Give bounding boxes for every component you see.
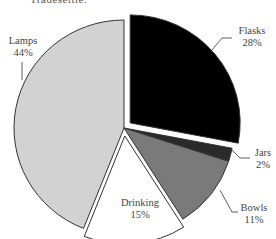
- label-bowls-value: 11%: [235, 214, 273, 226]
- label-lamps-name: Lamps: [6, 35, 40, 47]
- label-jars-name: Jars: [250, 147, 276, 159]
- leader-line: [232, 150, 250, 158]
- label-flasks-value: 28%: [232, 37, 272, 49]
- label-lamps: Lamps 44%: [6, 35, 40, 59]
- label-jars: Jars 2%: [250, 147, 276, 171]
- label-jars-value: 2%: [250, 159, 276, 171]
- label-bowls: Bowls 11%: [235, 202, 273, 226]
- label-drinking-value: 15%: [115, 209, 165, 221]
- label-drinking-name: Drinking: [115, 197, 165, 209]
- leader-line: [212, 38, 232, 50]
- label-flasks: Flasks 28%: [232, 25, 272, 49]
- pie-slice-flasks: [130, 15, 240, 143]
- label-flasks-name: Flasks: [232, 25, 272, 37]
- label-lamps-value: 44%: [6, 47, 40, 59]
- label-bowls-name: Bowls: [235, 202, 273, 214]
- label-drinking: Drinking 15%: [115, 197, 165, 221]
